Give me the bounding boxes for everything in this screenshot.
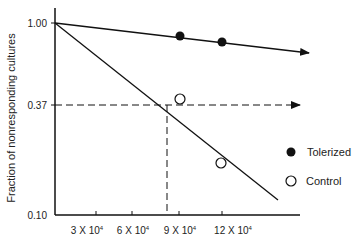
control-point xyxy=(175,94,185,104)
control-legend-label: Control xyxy=(306,175,341,187)
control-legend-marker xyxy=(286,176,296,186)
xtick-12: 12 X 104 xyxy=(214,225,252,236)
tolerized-legend-marker xyxy=(287,148,296,157)
xtick-3: 3 X 104 xyxy=(71,225,104,236)
tolerized-point xyxy=(218,38,227,47)
y-axis-label: Fraction of nonresponding cultures xyxy=(5,33,17,203)
xtick-6: 6 X 104 xyxy=(117,225,150,236)
tolerized-point xyxy=(176,32,185,41)
legend: Tolerized Control xyxy=(286,146,351,187)
ytick-1: 1.00 xyxy=(28,18,48,29)
tolerized-legend-label: Tolerized xyxy=(307,146,351,158)
xtick-9: 9 X 104 xyxy=(164,225,197,236)
ytick-010: 0.10 xyxy=(28,210,48,221)
ytick-037: 0.37 xyxy=(28,100,48,111)
chart: 1.00 0.37 0.10 3 X 104 6 X 104 9 X 104 1… xyxy=(0,0,357,245)
control-point xyxy=(216,158,226,168)
